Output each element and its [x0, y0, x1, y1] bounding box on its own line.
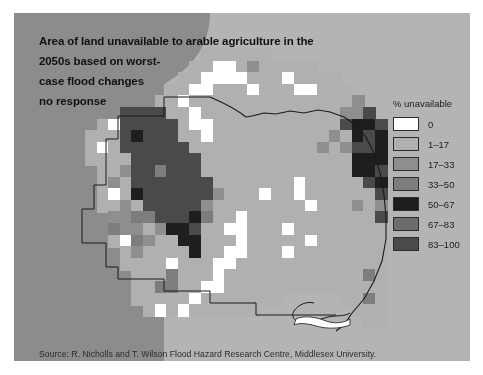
title-line-4: no response	[39, 91, 339, 111]
title-line-2: 2050s based on worst-	[39, 51, 339, 71]
legend-item: 50–67	[393, 194, 483, 214]
page-title: Area of land unavailable to arable agric…	[39, 31, 339, 111]
legend-label: 17–33	[428, 159, 454, 170]
legend-swatch	[393, 157, 419, 171]
legend-label: 83–100	[428, 239, 460, 250]
legend-swatch	[393, 197, 419, 211]
legend-swatch	[393, 177, 419, 191]
legend-item: 67–83	[393, 214, 483, 234]
figure-root: Area of land unavailable to arable agric…	[0, 0, 483, 375]
legend-label: 50–67	[428, 199, 454, 210]
legend-item: 17–33	[393, 154, 483, 174]
title-line-1: Area of land unavailable to arable agric…	[39, 31, 339, 51]
legend-swatch	[393, 237, 419, 251]
legend-swatch	[393, 117, 419, 131]
legend-rows: 01–1717–3333–5050–6767–8383–100	[393, 114, 483, 254]
legend-title: % unavailable	[393, 98, 483, 109]
legend-item: 0	[393, 114, 483, 134]
title-line-3: case flood changes	[39, 71, 339, 91]
legend: % unavailable 01–1717–3333–5050–6767–838…	[393, 98, 483, 254]
legend-swatch	[393, 137, 419, 151]
legend-label: 33–50	[428, 179, 454, 190]
source-caption: Source: R. Nicholls and T. Wilson Flood …	[39, 349, 439, 359]
legend-label: 1–17	[428, 139, 449, 150]
legend-label: 67–83	[428, 219, 454, 230]
legend-label: 0	[428, 119, 433, 130]
legend-item: 83–100	[393, 234, 483, 254]
legend-swatch	[393, 217, 419, 231]
legend-item: 1–17	[393, 134, 483, 154]
legend-item: 33–50	[393, 174, 483, 194]
